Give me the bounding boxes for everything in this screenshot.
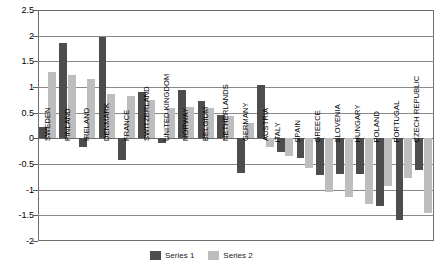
legend-swatch — [150, 251, 161, 260]
category-label: POLAND — [373, 111, 381, 142]
y-axis-tick-label: -0.5 — [18, 160, 34, 169]
category-label: FINLAND — [64, 109, 72, 142]
category-label: PORTUGAL — [393, 101, 401, 143]
bar[interactable] — [237, 138, 245, 173]
bar-group: NORWAY — [177, 10, 197, 241]
legend-label: Series 2 — [223, 251, 252, 260]
bar-group: BELGIUM — [196, 10, 216, 241]
legend-label: Series 1 — [165, 251, 194, 260]
bar-group: IRELAND — [78, 10, 98, 241]
bar-groups: SWEDENFINLANDIRELANDDENMARKFRANCESWITZER… — [38, 10, 434, 241]
category-label: SPAIN — [294, 120, 302, 142]
category-label: SLOVENIA — [333, 105, 341, 143]
bar[interactable] — [336, 138, 344, 173]
bar[interactable] — [376, 138, 384, 206]
bar-group: UNITED KINGDOM — [157, 10, 177, 241]
chart-legend: Series 1Series 2 — [150, 249, 253, 262]
category-label: IRELAND — [83, 108, 91, 141]
bar-group: GERMANY — [236, 10, 256, 241]
legend-item[interactable]: Series 1 — [150, 251, 194, 260]
legend-item[interactable]: Series 2 — [208, 251, 252, 260]
bar[interactable] — [325, 138, 333, 191]
y-axis-tick-label: -1.5 — [18, 211, 34, 220]
category-label: FRANCE — [123, 110, 131, 141]
category-label: UNITED KINGDOM — [163, 74, 171, 141]
y-axis: 2.521.510.50-0.5-1-1.5-2 — [0, 10, 38, 241]
bar-group: DENMARK — [97, 10, 117, 241]
category-label: DENMARK — [103, 103, 111, 141]
category-label: GREECE — [314, 111, 322, 143]
bar[interactable] — [424, 138, 432, 212]
category-label: SWEDEN — [44, 108, 52, 142]
bar[interactable] — [384, 138, 392, 185]
bar[interactable] — [305, 138, 313, 168]
bar[interactable] — [365, 138, 373, 204]
bar[interactable] — [356, 138, 364, 174]
category-label: NORWAY — [182, 108, 190, 141]
chart-root: 2.521.510.50-0.5-1-1.5-2 SWEDENFINLANDIR… — [0, 0, 443, 262]
plot-area: SWEDENFINLANDIRELANDDENMARKFRANCESWITZER… — [38, 10, 434, 241]
bar-group: FRANCE — [117, 10, 137, 241]
bar-group: SWITZERLAND — [137, 10, 157, 241]
category-label: CZECH REPUBLIC — [413, 76, 421, 143]
bar[interactable] — [118, 138, 126, 160]
bar[interactable] — [415, 138, 423, 170]
category-label: GERMANY — [242, 103, 250, 142]
bar-group: SWEDEN — [38, 10, 58, 241]
bar[interactable] — [396, 138, 404, 220]
bar[interactable] — [345, 138, 353, 197]
category-label: NETHERLANDS — [222, 84, 230, 141]
bar-group: NETHERLANDS — [216, 10, 236, 241]
bar[interactable] — [316, 138, 324, 175]
category-label: SWITZERLAND — [143, 86, 151, 141]
legend-swatch — [208, 251, 219, 260]
bar-group: CZECH REPUBLIC — [414, 10, 434, 241]
bar-group: FINLAND — [58, 10, 78, 241]
category-label: BELGIUM — [202, 107, 210, 141]
category-label: HUNGARY — [353, 105, 361, 143]
category-label: AUSTRIA — [262, 108, 270, 141]
bar[interactable] — [404, 138, 412, 178]
category-label: ITALY — [274, 123, 282, 143]
y-axis-tick-mark — [33, 241, 38, 242]
